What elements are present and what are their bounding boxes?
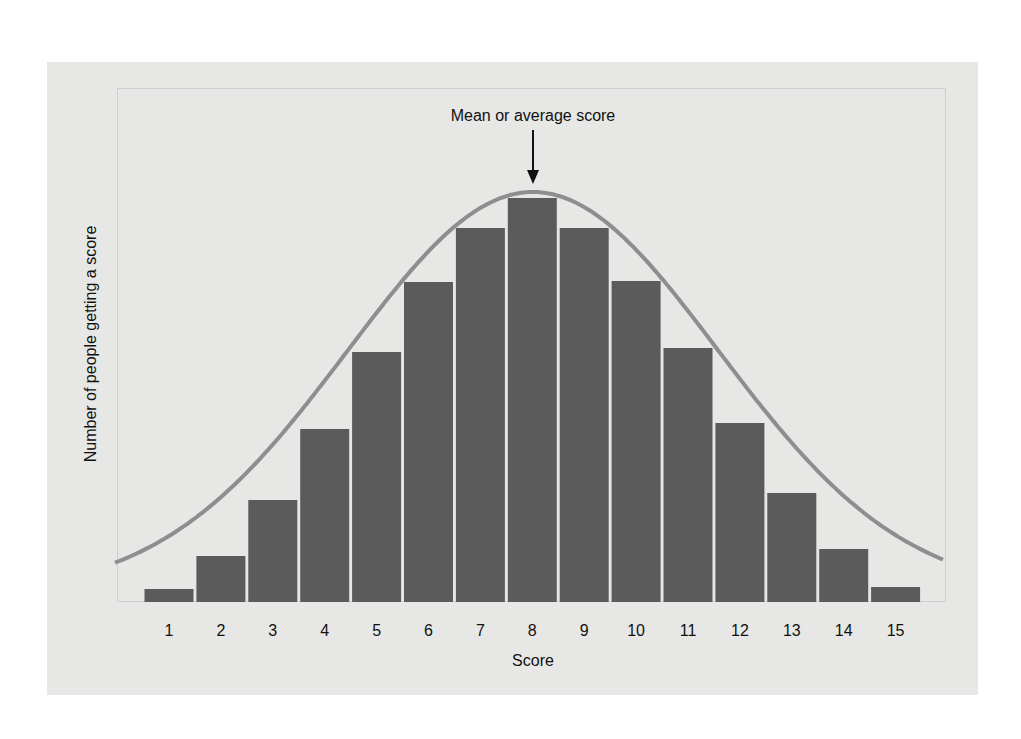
histogram-bar: [612, 281, 661, 602]
x-tick-label: 13: [783, 622, 801, 639]
x-tick-label: 12: [731, 622, 749, 639]
x-tick-label: 14: [835, 622, 853, 639]
histogram-bar: [456, 228, 505, 602]
bars-group: [145, 198, 921, 602]
x-tick-label: 5: [372, 622, 381, 639]
x-tick-label: 15: [887, 622, 905, 639]
histogram-bar: [352, 352, 401, 602]
x-tick-label: 10: [627, 622, 645, 639]
x-tick-label: 8: [528, 622, 537, 639]
x-tick-label: 1: [165, 622, 174, 639]
mean-annotation: Mean or average score: [451, 107, 616, 124]
histogram-bar: [508, 198, 557, 602]
histogram-bar: [248, 500, 297, 602]
x-tick-label: 6: [424, 622, 433, 639]
x-tick-label: 2: [216, 622, 225, 639]
histogram-bar: [819, 549, 868, 602]
y-axis-label: Number of people getting a score: [82, 226, 99, 463]
histogram-bar: [871, 587, 920, 602]
histogram-bar: [145, 589, 194, 602]
x-tick-label: 4: [320, 622, 329, 639]
x-axis-label: Score: [512, 652, 554, 669]
x-tick-label: 11: [680, 622, 697, 639]
x-tick-labels: 123456789101112131415: [165, 622, 905, 639]
x-tick-label: 7: [476, 622, 485, 639]
x-tick-label: 9: [580, 622, 589, 639]
histogram-bar: [560, 228, 609, 602]
arrow-down-icon: [527, 130, 539, 184]
histogram-bar: [767, 493, 816, 602]
histogram-bar: [404, 282, 453, 602]
histogram-bar: [715, 423, 764, 602]
histogram-bar: [664, 348, 713, 602]
histogram-bar: [196, 556, 245, 602]
histogram-chart: 123456789101112131415 Mean or average sc…: [0, 0, 1021, 739]
histogram-bar: [300, 429, 349, 602]
x-tick-label: 3: [268, 622, 277, 639]
